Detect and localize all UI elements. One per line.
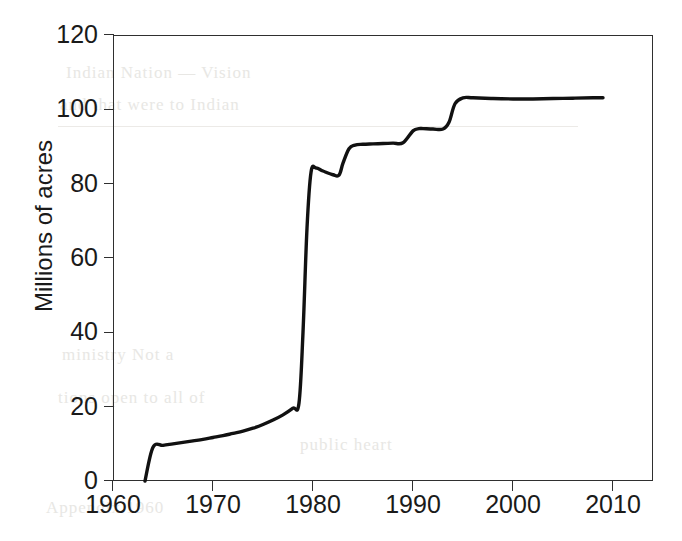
y-tick-label-40: 40 xyxy=(40,319,98,344)
y-axis-labels: 020406080100120 xyxy=(20,0,98,541)
y-tick-100 xyxy=(104,109,114,110)
x-tick-label-2010: 2010 xyxy=(568,492,658,517)
y-tick-60 xyxy=(104,257,114,258)
y-tick-120 xyxy=(104,34,114,35)
y-tick-label-20: 20 xyxy=(40,394,98,419)
y-tick-label-100: 100 xyxy=(40,96,98,121)
x-tick-label-2000: 2000 xyxy=(468,492,558,517)
plot-area xyxy=(113,35,653,481)
y-tick-80 xyxy=(104,183,114,184)
y-tick-label-60: 60 xyxy=(40,245,98,270)
y-tick-20 xyxy=(104,406,114,407)
x-tick-label-1960: 1960 xyxy=(68,492,158,517)
x-tick-label-1970: 1970 xyxy=(168,492,258,517)
x-tick-label-1980: 1980 xyxy=(268,492,358,517)
x-tick-label-1990: 1990 xyxy=(368,492,458,517)
y-tick-40 xyxy=(104,332,114,333)
chart-figure: Indian Nation — Vision and that were to … xyxy=(0,0,682,541)
y-tick-label-80: 80 xyxy=(40,171,98,196)
y-tick-label-120: 120 xyxy=(40,22,98,47)
